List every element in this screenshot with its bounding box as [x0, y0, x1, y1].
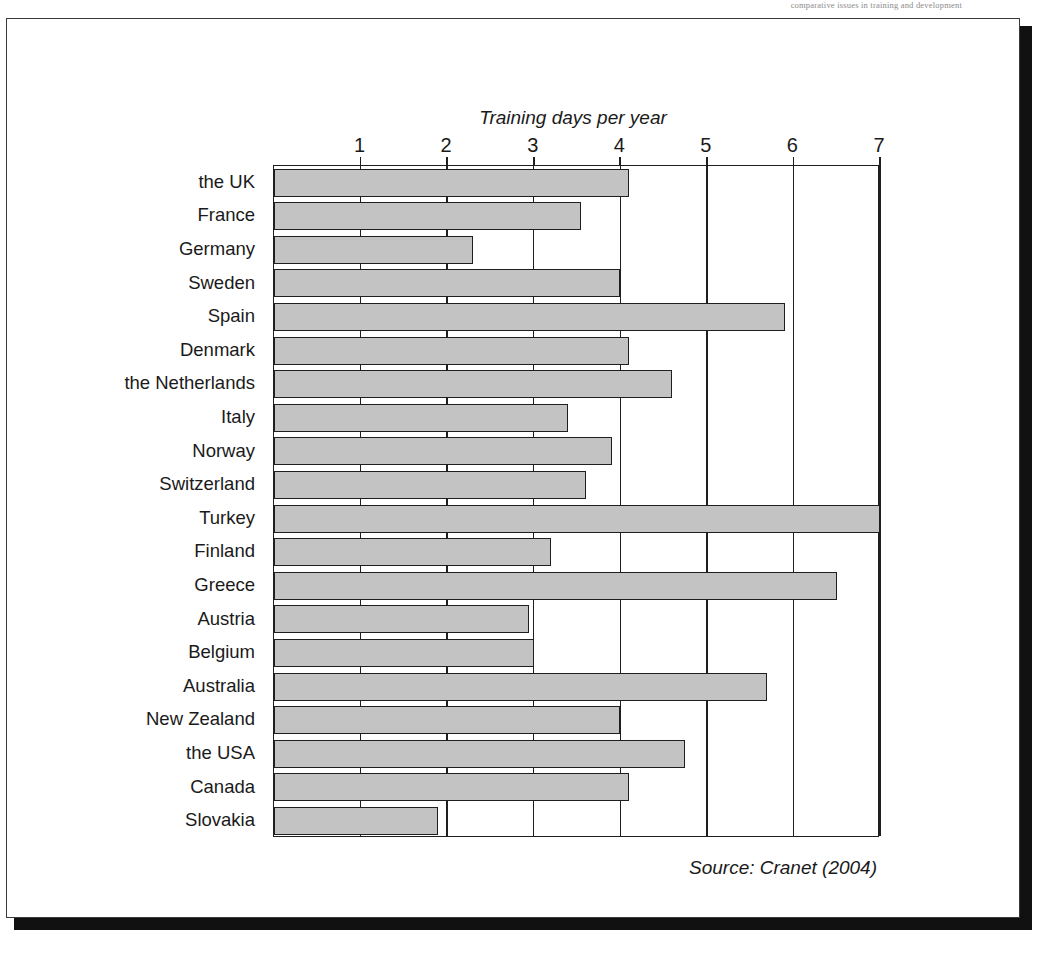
category-label: Finland: [194, 540, 255, 562]
bar-row: [274, 502, 880, 536]
x-axis-tick-label: 7: [873, 133, 884, 157]
x-axis-tick-label: 4: [614, 133, 625, 157]
x-axis-tick-labels: 1234567: [7, 133, 1021, 159]
bar-row: [274, 636, 880, 670]
bar-row: [274, 536, 880, 570]
category-label: Belgium: [188, 641, 255, 663]
bar-row: [274, 670, 880, 704]
bar-row: [274, 603, 880, 637]
bar-row: [274, 569, 880, 603]
bar: [274, 706, 620, 734]
bar-row: [274, 334, 880, 368]
category-label: the USA: [186, 742, 255, 764]
x-axis-tickmark: [446, 157, 448, 166]
bar-row: [274, 704, 880, 738]
category-label: Australia: [183, 675, 255, 697]
category-label: Greece: [194, 574, 255, 596]
bar-row: [274, 468, 880, 502]
category-label: Canada: [190, 776, 255, 798]
bar: [274, 236, 473, 264]
bar-chart: Training days per year 1234567 the UKFra…: [7, 19, 1021, 919]
x-axis-tick-label: 2: [441, 133, 452, 157]
x-axis-tick-label: 6: [787, 133, 798, 157]
bar: [274, 202, 581, 230]
bar: [274, 605, 529, 633]
bar: [274, 269, 620, 297]
bar: [274, 471, 586, 499]
category-label: the Netherlands: [124, 372, 255, 394]
bar-row: [274, 771, 880, 805]
bar-row: [274, 804, 880, 838]
bar-row: [274, 401, 880, 435]
bar: [274, 673, 767, 701]
y-axis-category-labels: the UKFranceGermanySwedenSpainDenmarkthe…: [7, 165, 265, 837]
bar: [274, 639, 534, 667]
bar-row: [274, 233, 880, 267]
bar: [274, 337, 629, 365]
x-axis-tickmark: [619, 157, 621, 166]
x-axis-tick-label: 3: [527, 133, 538, 157]
bar-row: [274, 368, 880, 402]
running-header: comparative issues in training and devel…: [0, 0, 1022, 11]
x-axis-tickmark: [879, 157, 881, 166]
bar: [274, 370, 672, 398]
category-label: Slovakia: [185, 809, 255, 831]
bar-row: [274, 200, 880, 234]
category-label: Denmark: [180, 339, 255, 361]
category-label: Norway: [192, 440, 255, 462]
category-label: Austria: [197, 608, 255, 630]
bar-row: [274, 300, 880, 334]
source-note: Source: Cranet (2004): [7, 857, 877, 879]
bar: [274, 303, 785, 331]
bar-row: [274, 267, 880, 301]
x-axis-tick-label: 1: [354, 133, 365, 157]
category-label: Italy: [221, 406, 255, 428]
x-axis-tickmark: [793, 157, 795, 166]
bar-row: [274, 166, 880, 200]
bar: [274, 572, 837, 600]
category-label: Spain: [208, 305, 255, 327]
x-axis-tickmark: [533, 157, 535, 166]
bar-row: [274, 435, 880, 469]
bar: [274, 740, 685, 768]
bar: [274, 404, 568, 432]
bar: [274, 437, 612, 465]
category-label: Turkey: [199, 507, 255, 529]
bar: [274, 538, 551, 566]
category-label: Switzerland: [159, 473, 255, 495]
plot-inner: [274, 166, 878, 836]
category-label: Sweden: [188, 272, 255, 294]
category-label: New Zealand: [146, 708, 255, 730]
figure-frame: Training days per year 1234567 the UKFra…: [6, 18, 1020, 918]
category-label: France: [197, 204, 255, 226]
bar: [274, 773, 629, 801]
category-label: Germany: [179, 238, 255, 260]
bar: [274, 169, 629, 197]
x-axis-tick-label: 5: [700, 133, 711, 157]
x-axis-tickmark: [360, 157, 362, 166]
bar-row: [274, 737, 880, 771]
plot-area: [273, 165, 879, 837]
category-label: the UK: [198, 171, 255, 193]
bar: [274, 505, 880, 533]
x-axis-tickmark: [706, 157, 708, 166]
bar: [274, 807, 438, 835]
x-axis-title: Training days per year: [273, 107, 873, 129]
